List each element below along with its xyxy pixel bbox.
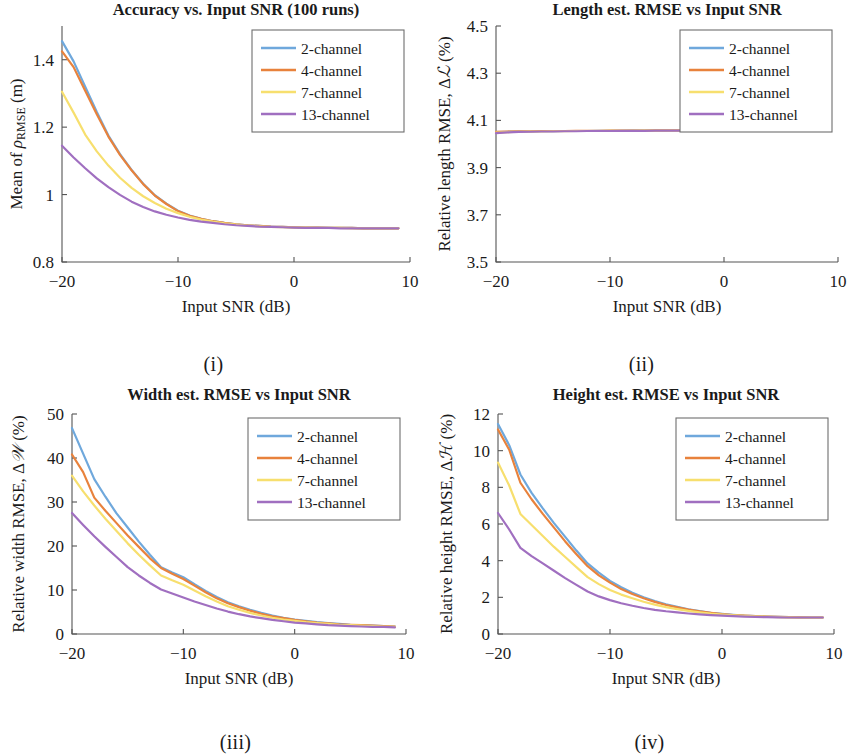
legend-entry-label: 7-channel — [297, 472, 358, 489]
y-axis-label: Relative width RMSE, Δ𝒲 (%) — [9, 415, 28, 632]
x-axis-label: Input SNR (dB) — [182, 297, 291, 316]
x-tick-label: 0 — [718, 644, 727, 663]
caption-i: (i) — [0, 353, 427, 376]
x-tick-label: −10 — [597, 644, 624, 663]
legend-entry-label: 7-channel — [725, 472, 786, 489]
caption-ii: (ii) — [428, 353, 855, 376]
y-tick-label: 2 — [482, 588, 491, 607]
y-tick-label: 10 — [473, 442, 490, 461]
y-tick-label: 12 — [473, 405, 490, 424]
plot-title: Height est. RMSE vs Input SNR — [553, 385, 781, 404]
plot-canvas-iii: Width est. RMSE vs Input SNR−20−10010010… — [0, 378, 427, 728]
figure-four-subplots: Accuracy vs. Input SNR (100 runs)−20−100… — [0, 0, 855, 756]
y-tick-label: 1 — [46, 186, 55, 205]
y-tick-label: 40 — [47, 449, 64, 468]
legend-entry-label: 13-channel — [729, 106, 798, 123]
plot-title: Width est. RMSE vs Input SNR — [127, 385, 352, 404]
y-tick-label: 50 — [47, 405, 64, 424]
legend-entry-label: 7-channel — [729, 84, 790, 101]
y-tick-label: 0.8 — [33, 253, 54, 272]
x-axis-label: Input SNR (dB) — [613, 297, 722, 316]
plot-title: Accuracy vs. Input SNR (100 runs) — [113, 0, 360, 19]
plot-legend: 2-channel4-channel7-channel13-channel — [676, 418, 828, 520]
y-tick-label: 30 — [47, 493, 64, 512]
x-tick-label: 10 — [830, 272, 847, 291]
legend-entry-label: 13-channel — [301, 106, 370, 123]
x-tick-label: 10 — [826, 644, 843, 663]
plot-canvas-ii: Length est. RMSE vs Input SNR−20−100103.… — [428, 0, 855, 360]
legend-entry-label: 7-channel — [301, 84, 362, 101]
caption-iii: (iii) — [0, 731, 449, 754]
y-tick-label: 0 — [56, 625, 65, 644]
x-tick-label: −10 — [597, 272, 624, 291]
plot-legend: 2-channel4-channel7-channel13-channel — [248, 418, 400, 520]
y-axis-label: Relative height RMSE, Δℋ (%) — [437, 414, 456, 634]
subplot-panel-i: Accuracy vs. Input SNR (100 runs)−20−100… — [0, 0, 427, 378]
legend-entry-label: 4-channel — [301, 62, 362, 79]
legend-entry-label: 2-channel — [301, 40, 362, 57]
y-tick-label: 6 — [482, 515, 491, 534]
y-tick-label: 1.4 — [33, 51, 55, 70]
y-tick-label: 4.5 — [467, 17, 488, 36]
y-tick-label: 0 — [482, 625, 491, 644]
x-tick-label: −20 — [49, 272, 76, 291]
legend-entry-label: 13-channel — [725, 494, 794, 511]
x-tick-label: −20 — [485, 644, 512, 663]
y-tick-label: 3.7 — [467, 206, 489, 225]
x-tick-label: 10 — [398, 644, 415, 663]
legend-entry-label: 4-channel — [725, 450, 786, 467]
y-tick-label: 4.3 — [467, 64, 488, 83]
y-tick-label: 4.1 — [467, 111, 488, 130]
plot-legend: 2-channel4-channel7-channel13-channel — [252, 30, 404, 132]
legend-entry-label: 13-channel — [297, 494, 366, 511]
caption-iv: (iv) — [428, 731, 855, 754]
y-tick-label: 20 — [47, 537, 64, 556]
y-tick-label: 4 — [482, 552, 491, 571]
x-tick-label: 0 — [720, 272, 729, 291]
x-axis-label: Input SNR (dB) — [612, 669, 721, 688]
data-series-line — [62, 146, 398, 229]
y-axis-label: Mean of ρRMSE (m) — [7, 78, 28, 209]
subplot-panel-iv: Height est. RMSE vs Input SNR−20−1001002… — [428, 378, 855, 756]
legend-entry-label: 4-channel — [729, 62, 790, 79]
legend-entry-label: 4-channel — [297, 450, 358, 467]
y-tick-label: 1.2 — [33, 118, 54, 137]
x-tick-label: −20 — [483, 272, 510, 291]
subplot-panel-ii: Length est. RMSE vs Input SNR−20−100103.… — [428, 0, 855, 378]
subplot-panel-iii: Width est. RMSE vs Input SNR−20−10010010… — [0, 378, 427, 756]
x-tick-label: −10 — [165, 272, 192, 291]
y-axis-label: Relative length RMSE, Δℒ (%) — [435, 36, 454, 251]
legend-entry-label: 2-channel — [729, 40, 790, 57]
legend-entry-label: 2-channel — [297, 428, 358, 445]
y-tick-label: 3.5 — [467, 253, 488, 272]
y-tick-label: 8 — [482, 478, 491, 497]
x-tick-label: −10 — [170, 644, 197, 663]
y-tick-label: 3.9 — [467, 159, 488, 178]
x-tick-label: 0 — [290, 644, 299, 663]
x-tick-label: 0 — [290, 272, 299, 291]
plot-title: Length est. RMSE vs Input SNR — [552, 0, 782, 19]
legend-entry-label: 2-channel — [725, 428, 786, 445]
data-series-line — [72, 513, 395, 627]
x-tick-label: −20 — [59, 644, 86, 663]
plot-legend: 2-channel4-channel7-channel13-channel — [680, 30, 832, 132]
y-tick-label: 10 — [47, 581, 64, 600]
x-tick-label: 10 — [402, 272, 419, 291]
plot-canvas-iv: Height est. RMSE vs Input SNR−20−1001002… — [428, 378, 855, 728]
plot-canvas-i: Accuracy vs. Input SNR (100 runs)−20−100… — [0, 0, 427, 360]
x-axis-label: Input SNR (dB) — [185, 669, 294, 688]
